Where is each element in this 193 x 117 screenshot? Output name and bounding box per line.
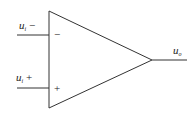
output-label: uo bbox=[173, 44, 182, 57]
op-amp-triangle bbox=[49, 11, 152, 108]
input-subscript: i bbox=[22, 78, 24, 84]
input-sign: − bbox=[29, 19, 35, 31]
noninverting-input-label: ui + bbox=[16, 71, 32, 84]
noninverting-pin-mark: + bbox=[54, 82, 60, 94]
output-subscript: o bbox=[179, 51, 182, 57]
inverting-input-label: ui − bbox=[19, 19, 35, 32]
inverting-pin-mark: − bbox=[54, 28, 60, 40]
input-subscript: i bbox=[25, 26, 27, 32]
op-amp-diagram: ui − − ui + + uo bbox=[0, 0, 193, 117]
input-sign: + bbox=[26, 71, 32, 83]
op-amp-schematic bbox=[0, 0, 193, 117]
